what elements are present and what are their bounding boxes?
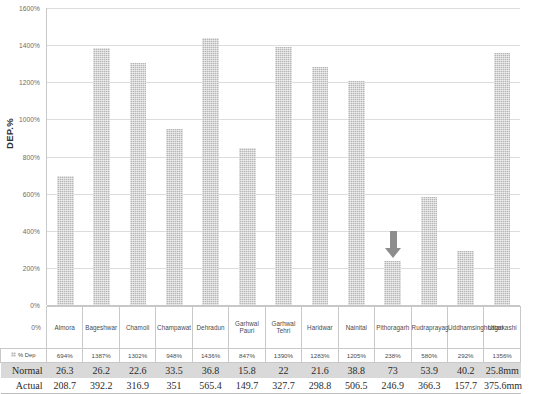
dep-value-cell: 1302%	[119, 348, 155, 362]
category-label-cell: Nainital	[338, 307, 374, 349]
y-tick-label: 1400%	[19, 42, 40, 49]
bar-slot	[302, 8, 338, 305]
dep-value-cell: 1283%	[302, 348, 338, 362]
bar-slot	[47, 8, 83, 305]
normal-value-cell: 53.9	[411, 362, 447, 378]
normal-row: Normal26.326.222.633.536.815.82221.638.8…	[1, 362, 521, 378]
bar-series	[47, 8, 520, 305]
bar[interactable]	[312, 67, 329, 305]
bar[interactable]	[421, 197, 438, 305]
category-label-cell: Bageshwar	[83, 307, 119, 349]
actual-value-cell: 208.7	[47, 378, 83, 394]
bar-slot	[229, 8, 265, 305]
normal-value-cell: 22	[265, 362, 301, 378]
bar[interactable]	[130, 63, 147, 305]
category-label-cell: Uttarkashi	[484, 307, 521, 349]
bar[interactable]	[384, 261, 401, 305]
category-label-cell: Pithoragarh	[375, 307, 411, 349]
category-label-cell: Dehradun	[192, 307, 228, 349]
actual-value-cell: 565.4	[192, 378, 228, 394]
actual-value-cell: 149.7	[229, 378, 265, 394]
dep-value-cell: 694%	[47, 348, 83, 362]
dep-value-cell: 1436%	[192, 348, 228, 362]
bar[interactable]	[348, 81, 365, 305]
actual-value-cell: 351	[156, 378, 192, 394]
normal-value-cell: 15.8	[229, 362, 265, 378]
y-axis-tick-labels: 1600%1400%1200%1000%800%600%400%200%0%	[0, 8, 44, 305]
decorative-mark	[513, 186, 525, 200]
category-label-cell: Almora	[47, 307, 83, 349]
actual-value-cell: 316.9	[119, 378, 155, 394]
table-body: 0%AlmoraBageshwarChamoliChampawatDehradu…	[1, 307, 521, 394]
bar[interactable]	[166, 129, 183, 305]
actual-value-cell: 506.5	[338, 378, 374, 394]
category-label-cell: Uddhamsinghnagar	[447, 307, 483, 349]
actual-value-cell: 298.8	[302, 378, 338, 394]
dep-value-cell: 1387%	[83, 348, 119, 362]
normal-value-cell: 21.6	[302, 362, 338, 378]
normal-value-cell: 26.2	[83, 362, 119, 378]
normal-value-cell: 36.8	[192, 362, 228, 378]
dep-value-cell: 1205%	[338, 348, 374, 362]
dep-value-cell: 580%	[411, 348, 447, 362]
category-label-cell: Garhwal Pauri	[229, 307, 265, 349]
actual-row: Actual208.7392.2316.9351565.4149.7327.72…	[1, 378, 521, 394]
bar[interactable]	[275, 47, 292, 305]
y-tick-label: 1600%	[19, 5, 40, 12]
data-table-wrap: 0%AlmoraBageshwarChamoliChampawatDehradu…	[0, 306, 537, 394]
bar-chart: DEP.% 1600%1400%1200%1000%800%600%400%20…	[0, 0, 537, 312]
y-tick-label: 1200%	[19, 79, 40, 86]
bar[interactable]	[457, 251, 474, 305]
bar[interactable]	[202, 38, 219, 305]
normal-value-cell: 25.8mm	[484, 362, 521, 378]
dep-value-cell: 847%	[229, 348, 265, 362]
actual-value-cell: 157.7	[447, 378, 483, 394]
data-table: 0%AlmoraBageshwarChamoliChampawatDehradu…	[0, 306, 521, 394]
bar-slot	[411, 8, 447, 305]
normal-value-cell: 73	[375, 362, 411, 378]
bar[interactable]	[57, 176, 74, 305]
dep-value-cell: 1390%	[265, 348, 301, 362]
bar-slot	[338, 8, 374, 305]
legend-swatch-icon	[11, 352, 16, 357]
dep-value-cell: 948%	[156, 348, 192, 362]
normal-value-cell: 26.3	[47, 362, 83, 378]
category-header-row: 0%AlmoraBageshwarChamoliChampawatDehradu…	[1, 307, 521, 349]
plot-area	[46, 8, 520, 305]
normal-value-cell: 40.2	[447, 362, 483, 378]
actual-value-cell: 375.6mm	[484, 378, 521, 394]
bar-slot	[375, 8, 411, 305]
y-tick-label: 1000%	[19, 116, 40, 123]
bar-slot	[120, 8, 156, 305]
dep-value-cell: 292%	[447, 348, 483, 362]
y-tick-label: 400%	[23, 227, 40, 234]
category-label-cell: Haridwar	[302, 307, 338, 349]
y-tick-label: 600%	[23, 190, 40, 197]
bar-slot	[193, 8, 229, 305]
dep-row-label: % Dep	[1, 348, 47, 362]
actual-row-label: Actual	[1, 378, 47, 394]
bar[interactable]	[239, 148, 256, 305]
normal-value-cell: 22.6	[119, 362, 155, 378]
category-label-cell: Champawat	[156, 307, 192, 349]
bar[interactable]	[494, 53, 511, 305]
category-label-cell: Chamoli	[119, 307, 155, 349]
y-tick-label: 800%	[23, 153, 40, 160]
bar-slot	[447, 8, 483, 305]
normal-value-cell: 38.8	[338, 362, 374, 378]
category-label-cell: Garhwal Tehri	[265, 307, 301, 349]
category-label-cell: Rudraprayag	[411, 307, 447, 349]
bar-slot	[265, 8, 301, 305]
normal-row-label: Normal	[1, 362, 47, 378]
bar-slot	[156, 8, 192, 305]
actual-value-cell: 392.2	[83, 378, 119, 394]
y-tick-label: 200%	[23, 264, 40, 271]
zero-tick-label: 0%	[1, 307, 47, 349]
dep-value-cell: 238%	[375, 348, 411, 362]
bar[interactable]	[93, 48, 110, 305]
bar-slot	[83, 8, 119, 305]
actual-value-cell: 327.7	[265, 378, 301, 394]
dep-row: % Dep694%1387%1302%948%1436%847%1390%128…	[1, 348, 521, 362]
dep-value-cell: 1356%	[484, 348, 521, 362]
